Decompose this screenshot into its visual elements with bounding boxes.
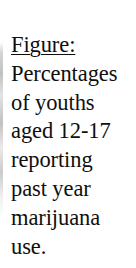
caption-line-8: use. bbox=[11, 233, 129, 262]
caption-line-3: of youths bbox=[11, 89, 129, 118]
caption-line-7: marijuana bbox=[11, 204, 129, 233]
caption-line-4: aged 12-17 bbox=[11, 117, 129, 146]
scanned-page: Figure: Percentages of youths aged 12-17… bbox=[0, 0, 136, 268]
scan-edge-artifact bbox=[0, 42, 3, 218]
caption-line-1: Figure: bbox=[11, 31, 129, 60]
caption-line-2: Percentages bbox=[11, 60, 129, 89]
figure-caption: Figure: Percentages of youths aged 12-17… bbox=[11, 31, 129, 261]
caption-line-6: past year bbox=[11, 175, 129, 204]
figure-label: Figure: bbox=[11, 32, 75, 57]
caption-line-5: reporting bbox=[11, 146, 129, 175]
